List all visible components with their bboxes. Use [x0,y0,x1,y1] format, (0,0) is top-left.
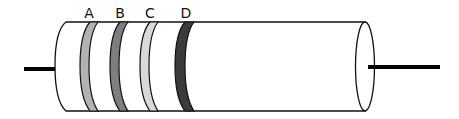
left-lead [24,67,56,71]
band-c-label: C [145,5,155,21]
right-lead [368,65,440,69]
right-lead-front [368,65,376,69]
band-b-label: B [115,5,125,21]
resistor-body [55,22,365,111]
band-a-label: A [84,5,94,21]
band-d-label: D [181,5,192,21]
resistor-diagram: A B C D [0,0,459,119]
